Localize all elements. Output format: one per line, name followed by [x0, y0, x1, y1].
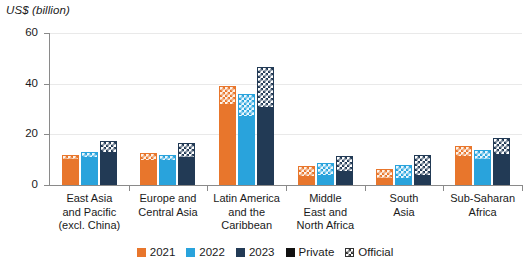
- bar-segment-private: [493, 155, 510, 185]
- legend-label: 2021: [150, 246, 176, 258]
- bar-segment-official: [257, 67, 274, 108]
- bar-group: [207, 33, 286, 185]
- bar-segment-official: [100, 141, 117, 154]
- bar-segment-official: [336, 156, 353, 172]
- x-axis-label-line: (excl. China): [50, 219, 129, 233]
- x-axis-label-line: and the: [207, 206, 286, 220]
- legend-swatch-icon: [286, 248, 295, 257]
- bar-segment-official: [376, 169, 393, 179]
- x-axis-label: Sub-SaharanAfrica: [443, 192, 522, 219]
- bar-2021[interactable]: [298, 166, 315, 185]
- bar-2023[interactable]: [493, 138, 510, 185]
- bar-segment-private: [336, 172, 353, 185]
- bar-segment-private: [81, 158, 98, 185]
- bar-segment-official: [159, 155, 176, 161]
- bar-segment-private: [238, 117, 255, 185]
- legend-item-2023[interactable]: 2023: [236, 246, 275, 258]
- bar-2021[interactable]: [219, 86, 236, 185]
- bar-group: [129, 33, 208, 185]
- bar-segment-private: [100, 153, 117, 185]
- bar-2021[interactable]: [62, 155, 79, 185]
- legend-item-private[interactable]: Private: [286, 246, 335, 258]
- legend-swatch-icon: [186, 248, 195, 257]
- x-axis-label-line: Europe and: [129, 192, 208, 206]
- bar-segment-official: [238, 94, 255, 117]
- bar-segment-official: [219, 86, 236, 105]
- x-axis-label: Latin Americaand theCaribbean: [207, 192, 286, 233]
- x-axis-label-line: South: [365, 192, 444, 206]
- bar-segment-private: [455, 157, 472, 185]
- bar-2022[interactable]: [395, 165, 412, 185]
- legend-label: 2022: [199, 246, 225, 258]
- bar-segment-private: [376, 179, 393, 185]
- x-axis-label-line: North Africa: [286, 219, 365, 233]
- category-separator: [286, 185, 287, 191]
- x-axis-label: MiddleEast andNorth Africa: [286, 192, 365, 233]
- bar-2021[interactable]: [376, 169, 393, 185]
- y-axis-title: US$ (billion): [6, 4, 70, 16]
- bar-segment-private: [178, 158, 195, 185]
- bar-segment-official: [414, 155, 431, 177]
- bar-segment-private: [219, 105, 236, 185]
- legend-label: 2023: [249, 246, 275, 258]
- category-separator: [207, 185, 208, 191]
- x-axis-label: Europe andCentral Asia: [129, 192, 208, 219]
- bar-2023[interactable]: [178, 143, 195, 185]
- legend-swatch-icon: [137, 248, 146, 257]
- bar-2023[interactable]: [257, 67, 274, 185]
- bar-group: [443, 33, 522, 185]
- legend-swatch-icon: [236, 248, 245, 257]
- category-separator: [443, 185, 444, 191]
- legend-swatch-icon: [345, 248, 354, 257]
- bar-segment-official: [178, 143, 195, 158]
- chart-legend: 202120222023PrivateOfficial: [0, 246, 530, 258]
- x-axis-label-line: Latin America: [207, 192, 286, 206]
- x-axis-label-line: Central Asia: [129, 206, 208, 220]
- bar-2023[interactable]: [414, 155, 431, 185]
- bar-2022[interactable]: [474, 150, 491, 185]
- bar-segment-official: [455, 146, 472, 157]
- bar-segment-official: [62, 155, 79, 160]
- bar-2023[interactable]: [336, 156, 353, 185]
- bar-segment-official: [474, 150, 491, 160]
- bar-group: [286, 33, 365, 185]
- x-axis-label: SouthAsia: [365, 192, 444, 219]
- legend-label: Official: [358, 246, 393, 258]
- bar-2022[interactable]: [81, 152, 98, 185]
- x-axis-label: East Asiaand Pacific(excl. China): [50, 192, 129, 233]
- bar-2022[interactable]: [159, 155, 176, 185]
- bar-2023[interactable]: [100, 141, 117, 185]
- category-separator: [129, 185, 130, 191]
- x-axis-label-line: Sub-Saharan: [443, 192, 522, 206]
- x-axis-label-line: Africa: [443, 206, 522, 220]
- bar-2022[interactable]: [317, 163, 334, 185]
- bar-2021[interactable]: [455, 146, 472, 185]
- bar-segment-official: [81, 152, 98, 158]
- bar-segment-private: [414, 176, 431, 185]
- bar-2021[interactable]: [140, 153, 157, 185]
- bar-segment-private: [317, 176, 334, 185]
- x-axis-label-line: East Asia: [50, 192, 129, 206]
- bar-group: [50, 33, 129, 185]
- x-axis-label-line: Middle: [286, 192, 365, 206]
- y-tick-label-0: 0: [0, 179, 38, 189]
- bar-segment-official: [140, 153, 157, 161]
- bar-segment-private: [257, 108, 274, 185]
- bar-segment-private: [140, 161, 157, 185]
- legend-item-2021[interactable]: 2021: [137, 246, 176, 258]
- bar-segment-official: [298, 166, 315, 177]
- x-axis-label-line: East and: [286, 206, 365, 220]
- bar-segment-private: [62, 160, 79, 185]
- bar-segment-private: [159, 161, 176, 185]
- x-axis-label-line: Asia: [365, 206, 444, 220]
- y-tick-label-40: 40: [0, 78, 38, 88]
- y-tick-0: [44, 185, 50, 186]
- bar-segment-official: [395, 165, 412, 179]
- legend-label: Private: [299, 246, 335, 258]
- bar-segment-official: [493, 138, 510, 154]
- bar-2022[interactable]: [238, 94, 255, 185]
- legend-item-official[interactable]: Official: [345, 246, 393, 258]
- legend-item-2022[interactable]: 2022: [186, 246, 225, 258]
- bar-segment-official: [317, 163, 334, 176]
- plot-area: [50, 33, 522, 185]
